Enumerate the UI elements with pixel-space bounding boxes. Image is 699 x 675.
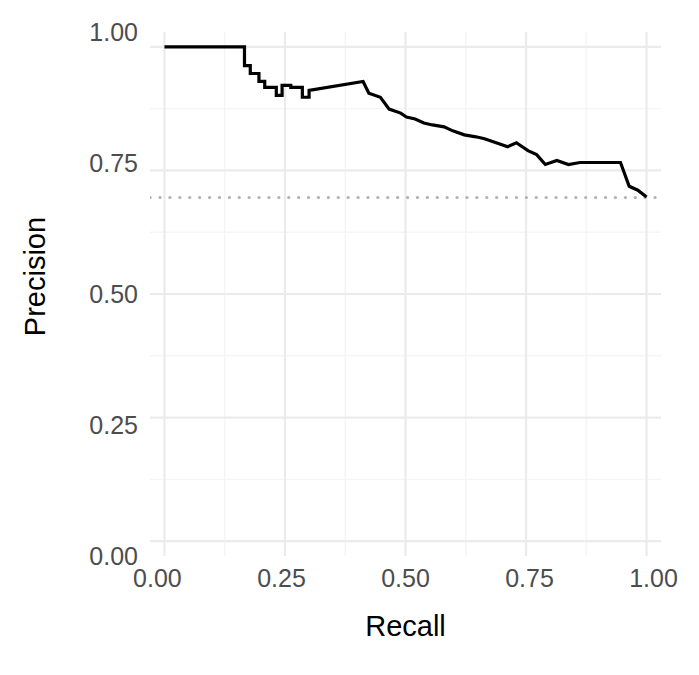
x-tick-label-3: 0.75 [505, 566, 554, 591]
x-tick-label-4: 1.00 [629, 566, 678, 591]
plot-area [150, 32, 661, 556]
y-tick-label-0: 0.00 [89, 544, 138, 569]
x-tick-label-2: 0.50 [381, 566, 430, 591]
plot-panel [150, 32, 661, 556]
y-tick-label-2: 0.50 [89, 282, 138, 307]
y-tick-label-3: 0.75 [89, 151, 138, 176]
y-tick-label-1: 0.25 [89, 413, 138, 438]
x-tick-label-1: 0.25 [257, 566, 306, 591]
x-axis-title: Recall [150, 612, 661, 641]
x-axis-tick-labels: 0.00 0.25 0.50 0.75 1.00 [150, 566, 661, 600]
y-tick-label-4: 1.00 [89, 20, 138, 45]
y-axis-title: Precision [21, 112, 50, 442]
x-tick-label-0: 0.00 [133, 566, 182, 591]
precision-recall-chart: 0.00 0.25 0.50 0.75 1.00 0.00 0.25 0.50 … [0, 0, 699, 675]
major-gridlines [150, 32, 661, 556]
